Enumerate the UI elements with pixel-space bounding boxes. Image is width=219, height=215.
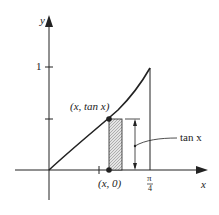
tan-x-annotation: tan x xyxy=(180,131,202,143)
x-tick-pi-label: π xyxy=(147,173,152,183)
x-axis-arrow-icon xyxy=(196,166,208,174)
dim-arrow-down-icon xyxy=(133,163,137,170)
shaded-strip xyxy=(109,119,122,170)
x-tick-4-label: 4 xyxy=(148,184,152,193)
diagram-canvas: y 1 (x, tan x) (x, 0) π 4 x tan x xyxy=(0,0,219,215)
point-bottom-label: (x, 0) xyxy=(98,177,121,189)
annotation-leader xyxy=(135,138,177,146)
dim-arrow-up-icon xyxy=(133,119,137,126)
y-axis-arrow-icon xyxy=(45,15,53,27)
x-axis-label: x xyxy=(201,178,206,190)
point-top-label: (x, tan x) xyxy=(70,100,109,112)
y-tick-1-label: 1 xyxy=(36,60,42,72)
point-top xyxy=(106,116,112,122)
y-axis-label: y xyxy=(40,14,45,26)
point-bottom xyxy=(106,167,112,173)
